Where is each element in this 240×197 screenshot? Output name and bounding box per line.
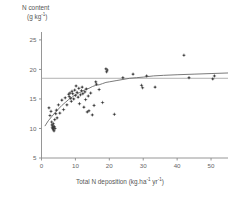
data-point-dot — [54, 119, 56, 121]
data-point — [153, 85, 156, 88]
x-axis-label: Total N deposition (kg.ha-1 yr-1) — [0, 178, 240, 185]
data-point — [101, 101, 104, 104]
data-point-dot — [75, 95, 77, 97]
data-point — [55, 116, 58, 119]
data-point — [82, 106, 85, 109]
data-point — [92, 104, 95, 107]
data-point — [64, 96, 67, 99]
data-point-dot — [84, 91, 86, 93]
data-point-dot — [49, 115, 51, 117]
data-point-dot — [93, 105, 95, 107]
y-axis-tick-label: 15 — [23, 95, 37, 102]
data-point-dot — [72, 93, 74, 95]
data-point — [87, 94, 90, 97]
data-point — [65, 103, 68, 106]
data-point — [187, 76, 190, 79]
y-axis-tick-label: 25 — [23, 36, 37, 43]
data-point-dot — [75, 85, 77, 87]
data-point-dot — [92, 114, 94, 116]
data-point-dot — [59, 112, 61, 114]
data-point-dot — [88, 110, 90, 112]
data-point — [76, 95, 79, 98]
data-point-dot — [154, 86, 156, 88]
data-point — [55, 108, 58, 111]
data-point — [94, 80, 97, 83]
data-point-dot — [74, 89, 76, 91]
data-point — [62, 108, 65, 111]
data-point-dot — [183, 54, 185, 56]
data-point — [113, 113, 116, 116]
data-point-dot — [87, 95, 89, 97]
data-point-dot — [51, 121, 53, 123]
data-point — [74, 84, 77, 87]
data-point-dot — [78, 87, 80, 89]
data-point-dot — [132, 73, 134, 75]
data-point — [49, 110, 52, 113]
data-point-dot — [61, 99, 63, 101]
data-point-dot — [98, 89, 100, 91]
data-point-dot — [188, 77, 190, 79]
data-point — [60, 98, 63, 101]
x-axis-label-mid: yr — [151, 178, 158, 185]
data-point — [211, 77, 214, 80]
data-point-dot — [214, 75, 216, 77]
data-point — [84, 98, 87, 101]
fitted-curve — [45, 73, 228, 126]
data-point — [91, 113, 94, 116]
data-point-dot — [96, 83, 98, 85]
data-point-dot — [105, 68, 107, 70]
data-point — [57, 103, 60, 106]
data-point-dot — [95, 81, 97, 83]
data-point-dot — [141, 85, 143, 87]
data-point-dot — [76, 92, 78, 94]
x-axis-tick-label: 50 — [203, 162, 219, 169]
data-point — [72, 97, 75, 100]
data-point-dot — [66, 104, 68, 106]
data-point-dot — [56, 109, 58, 111]
data-point-dot — [53, 130, 55, 132]
data-point — [89, 91, 92, 94]
x-axis-tick-label: 40 — [169, 162, 185, 169]
y-axis-tick-label: 20 — [23, 66, 37, 73]
data-point-dot — [54, 128, 56, 130]
y-axis-label: N content (g kg-1) — [22, 4, 49, 21]
data-point — [78, 102, 81, 105]
data-point-dot — [71, 90, 73, 92]
data-point-dot — [69, 92, 71, 94]
data-point-dot — [64, 97, 66, 99]
data-point — [53, 118, 56, 121]
data-point-dot — [90, 92, 92, 94]
data-point-dot — [68, 96, 70, 98]
data-point-dot — [81, 90, 83, 92]
x-axis-tick-label: 10 — [67, 162, 83, 169]
data-point-dot — [142, 87, 144, 89]
data-point-dot — [48, 107, 50, 109]
data-point — [182, 54, 185, 57]
data-point-dot — [58, 104, 60, 106]
data-point-dot — [50, 111, 52, 113]
data-point — [97, 88, 100, 91]
data-point-dot — [81, 86, 83, 88]
y-axis-tick-label: 10 — [23, 125, 37, 132]
data-point-dot — [56, 117, 58, 119]
data-point-dot — [53, 123, 55, 125]
data-point — [47, 106, 50, 109]
data-point-dot — [212, 78, 214, 80]
data-point-dot — [79, 103, 81, 105]
data-point-dot — [102, 102, 104, 104]
data-point-dot — [82, 93, 84, 95]
data-point — [77, 87, 80, 90]
data-point-dot — [83, 106, 85, 108]
data-point-dot — [68, 93, 70, 95]
data-point-dot — [70, 98, 72, 100]
data-point-dot — [146, 75, 148, 77]
data-point — [80, 85, 83, 88]
data-point-dot — [80, 94, 82, 96]
x-axis-tick-label: 0 — [34, 162, 50, 169]
data-point-dot — [106, 69, 108, 71]
y-axis-label-line2: (g kg — [27, 13, 41, 20]
data-point-dot — [85, 99, 87, 101]
x-axis-tick-label: 20 — [101, 162, 117, 169]
data-point-dot — [63, 109, 65, 111]
data-point-dot — [85, 88, 87, 90]
